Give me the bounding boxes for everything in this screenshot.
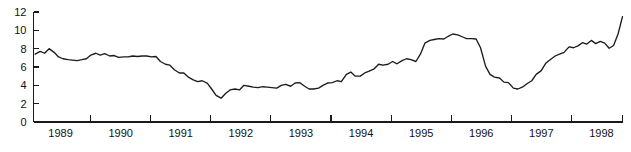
y-axis: 024681012 — [14, 6, 38, 128]
line-chart: 024681012 198919901991199219931994199519… — [0, 0, 631, 152]
x-tick-label: 1991 — [169, 127, 193, 139]
x-tick-label: 1996 — [469, 127, 493, 139]
x-tick-label: 1995 — [409, 127, 433, 139]
y-tick-label: 2 — [20, 98, 26, 110]
x-tick-label: 1994 — [349, 127, 373, 139]
x-tick-label: 1993 — [289, 127, 313, 139]
data-series-group — [35, 17, 622, 99]
y-tick-label: 0 — [20, 116, 26, 128]
y-tick-label: 6 — [20, 61, 26, 73]
x-tick-label: 1997 — [529, 127, 553, 139]
x-axis: 1989199019911992199319941995199619971998 — [34, 115, 623, 139]
x-tick-label: 1989 — [48, 127, 72, 139]
x-tick-label: 1992 — [229, 127, 253, 139]
y-tick-label: 8 — [20, 43, 26, 55]
data-line-series-1 — [35, 17, 622, 99]
y-tick-label: 4 — [20, 79, 26, 91]
y-tick-label: 10 — [14, 24, 26, 36]
x-tick-label: 1990 — [108, 127, 132, 139]
y-tick-label: 12 — [14, 6, 26, 18]
x-tick-label: 1998 — [589, 127, 613, 139]
chart-plot-area: 024681012 198919901991199219931994199519… — [0, 0, 631, 152]
